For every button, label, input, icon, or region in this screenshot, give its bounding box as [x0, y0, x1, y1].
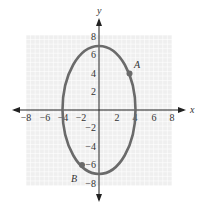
x-tick: −6	[40, 112, 51, 123]
y-tick: −6	[85, 159, 96, 170]
x-tick: 6	[152, 112, 157, 123]
y-tick: 4	[91, 68, 96, 79]
y-tick: 8	[91, 31, 96, 42]
x-axis-right-arrow-icon	[178, 107, 186, 113]
y-tick: −8	[85, 178, 96, 189]
point-a-label: A	[133, 59, 141, 70]
x-axis-left-arrow-icon	[12, 107, 20, 113]
y-tick: −2	[85, 122, 96, 133]
point-b	[79, 162, 85, 168]
point-a	[127, 71, 133, 77]
x-tick: 2	[115, 112, 120, 123]
y-axis-label: y	[96, 5, 102, 16]
y-axis-up-arrow-icon	[96, 18, 102, 26]
x-tick: 8	[170, 112, 175, 123]
y-tick: 2	[91, 86, 96, 97]
y-axis-down-arrow-icon	[96, 194, 102, 202]
y-tick: −4	[85, 141, 96, 152]
point-b-label: B	[71, 173, 77, 184]
y-tick: 6	[91, 49, 96, 60]
ellipse-graph: x y −8 −6 −4 −2 2 4 6 8 8 6 4 2 −2 −4 −6…	[0, 0, 206, 211]
x-tick: −8	[21, 112, 32, 123]
x-axis-label: x	[189, 104, 195, 115]
